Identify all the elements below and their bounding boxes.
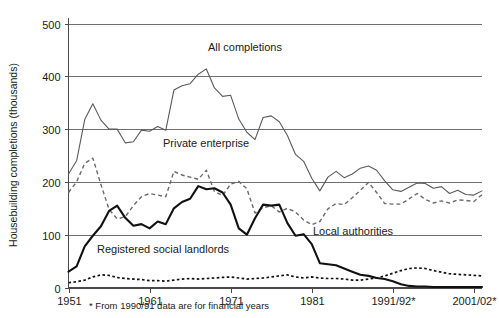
series-line-local-authorities: [69, 186, 483, 287]
y-tick-label-400: 400: [42, 71, 60, 83]
y-tick-label-0: 0: [54, 283, 60, 295]
y-tick-label-200: 200: [42, 177, 60, 189]
y-tick-label-100: 100: [42, 230, 60, 242]
x-tick-label-1981: 1981: [300, 295, 324, 307]
series-label-all-completions: All completions: [208, 41, 282, 53]
series-line-all-completions: [69, 69, 483, 195]
x-tick-label-1951: 1951: [57, 295, 81, 307]
series-label-registered-social-landlords: Registered social landlords: [97, 243, 230, 255]
series-line-registered-social-landlords: [69, 268, 483, 283]
series-label-private-enterprise: Private enterprise: [163, 137, 249, 149]
housebuilding-completions-chart: 0100200300400500 19511961197119811991/92…: [0, 0, 499, 318]
chart-footnote: * From 1990/91 data are for financial ye…: [89, 300, 269, 311]
y-axis-title: Housebuilding completions (thousands): [7, 63, 19, 247]
y-tick-label-500: 500: [42, 19, 60, 31]
x-tick-label-2001: 2001/02*: [452, 295, 497, 307]
series-annotations: All completionsPrivate enterpriseLocal a…: [97, 41, 394, 255]
y-axis-ticks: 0100200300400500: [42, 19, 68, 295]
series-line-private-enterprise: [69, 158, 483, 225]
chart-canvas: 0100200300400500 19511961197119811991/92…: [0, 0, 499, 318]
x-tick-label-1991: 1991/92*: [371, 295, 416, 307]
y-tick-label-300: 300: [42, 124, 60, 136]
series-label-local-authorities: Local authorities: [313, 225, 394, 237]
